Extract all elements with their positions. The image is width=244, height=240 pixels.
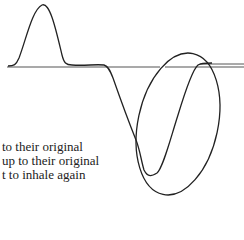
caption-line-1: to their original (2, 140, 83, 154)
caption-line-3: t to inhale again (2, 168, 85, 182)
caption-line-2: up to their original (2, 154, 99, 168)
highlight-ellipse (124, 45, 232, 202)
